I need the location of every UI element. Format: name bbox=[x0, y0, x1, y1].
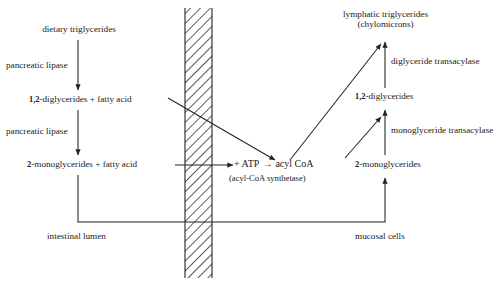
enzyme-pancreatic-lipase-2: pancreatic lipase bbox=[6, 126, 67, 136]
node-right-monoglycerides: 2-monoglycerides bbox=[355, 159, 421, 169]
reaction-plus-atp: + ATP bbox=[234, 158, 259, 169]
enzyme-pancreatic-lipase-2-text: pancreatic lipase bbox=[6, 126, 67, 136]
node-diglycerides-fatty-acid: 1,2-diglycerides + fatty acid bbox=[29, 94, 132, 104]
arrow-acylcoa-to-lymphatic-diagonal bbox=[290, 44, 381, 160]
reaction-product-acyl-coa: acyl CoA bbox=[275, 158, 313, 169]
node-dietary-triglycerides-text: dietary triglycerides bbox=[42, 24, 116, 34]
enzyme-monoglyceride-transacylase: monoglyceride transacylase bbox=[391, 125, 493, 135]
node-right-monoglycerides-rest: -monoglycerides bbox=[359, 159, 421, 169]
node-lymphatic-triglycerides: lymphatic triglycerides (chylomicrons) bbox=[288, 9, 483, 30]
node-monoglycerides-fatty-acid: 2-monoglycerides + fatty acid bbox=[27, 159, 137, 169]
compartment-label-mucosal-cells: mucosal cells bbox=[355, 231, 405, 241]
enzyme-diglyceride-transacylase-text: diglyceride transacylase bbox=[391, 56, 480, 66]
node-lymphatic-triglycerides-line1: lymphatic triglycerides bbox=[288, 9, 483, 19]
reaction-arrow-icon: → bbox=[259, 158, 275, 169]
compartment-label-intestinal-lumen: intestinal lumen bbox=[47, 231, 106, 241]
node-dietary-triglycerides: dietary triglycerides bbox=[0, 24, 158, 34]
node-right-diglycerides-prefix: 1,2 bbox=[355, 92, 365, 101]
arrow-acylcoa-to-diglycerides-diagonal bbox=[345, 117, 381, 158]
node-diglycerides-prefix: 1,2 bbox=[29, 95, 39, 104]
enzyme-pancreatic-lipase-1: pancreatic lipase bbox=[6, 60, 67, 70]
compartment-label-intestinal-lumen-text: intestinal lumen bbox=[47, 231, 106, 241]
node-right-diglycerides: 1,2-diglycerides bbox=[355, 91, 413, 101]
enzyme-diglyceride-transacylase: diglyceride transacylase bbox=[391, 56, 480, 66]
node-monoglycerides-rest: -monoglycerides + fatty acid bbox=[31, 159, 137, 169]
enzyme-acyl-coa-synthetase: (acyl-CoA synthetase) bbox=[229, 174, 306, 184]
enzyme-acyl-coa-synthetase-text: (acyl-CoA synthetase) bbox=[229, 173, 306, 183]
compartment-label-mucosal-cells-text: mucosal cells bbox=[355, 231, 405, 241]
enzyme-monoglyceride-transacylase-text: monoglyceride transacylase bbox=[391, 125, 493, 135]
node-right-diglycerides-rest: -diglycerides bbox=[365, 91, 413, 101]
membrane-band bbox=[185, 8, 212, 278]
enzyme-pancreatic-lipase-1-text: pancreatic lipase bbox=[6, 60, 67, 70]
center-reaction-line: + ATP→acyl CoA bbox=[234, 158, 313, 169]
node-lymphatic-triglycerides-line2: (chylomicrons) bbox=[288, 19, 483, 29]
diagram-canvas: dietary triglycerides pancreatic lipase … bbox=[0, 0, 501, 284]
diagram-vector-layer bbox=[0, 0, 501, 284]
node-diglycerides-rest: -diglycerides + fatty acid bbox=[39, 94, 131, 104]
arrow-diglycerides-to-atp-diagonal bbox=[168, 98, 275, 160]
